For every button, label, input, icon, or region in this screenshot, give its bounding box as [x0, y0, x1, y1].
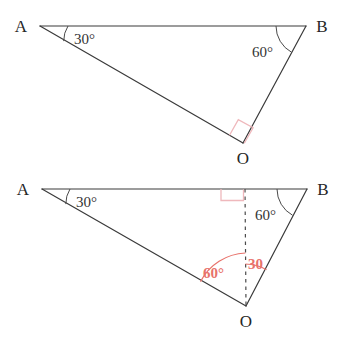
geometry-svg-canvas: A B O 30° 60° — [0, 0, 343, 341]
bottom-angle-label-a: 30° — [76, 194, 97, 210]
bottom-angle-arc-b — [277, 189, 293, 215]
bottom-vertex-label-o: O — [240, 312, 252, 331]
bottom-segment-ao — [42, 189, 246, 306]
bottom-angle-label-o-left: 60° — [203, 265, 224, 281]
bottom-perpendicular-dashed-line — [245, 189, 246, 306]
top-vertex-label-o: O — [237, 149, 249, 168]
bottom-angle-label-o-right: 30 — [248, 256, 263, 272]
top-angle-arc-b — [276, 26, 292, 52]
top-angle-arc-a — [64, 26, 68, 41]
bottom-right-angle-marker-icon — [221, 189, 244, 201]
geometry-figure: A B O 30° 60° — [0, 0, 343, 341]
top-vertex-label-a: A — [15, 17, 28, 36]
bottom-vertex-label-b: B — [317, 180, 328, 199]
top-triangle-group: A B O 30° 60° — [15, 17, 328, 168]
top-angle-label-b: 60° — [252, 44, 273, 60]
bottom-triangle-group: A B O 30° 60° 60° 30 — [17, 180, 329, 331]
bottom-vertex-label-a: A — [17, 180, 30, 199]
top-vertex-label-b: B — [316, 17, 327, 36]
bottom-angle-label-b: 60° — [255, 207, 276, 223]
top-angle-label-a: 30° — [74, 31, 95, 47]
top-segment-ao — [40, 26, 243, 143]
bottom-angle-arc-a — [66, 189, 70, 204]
